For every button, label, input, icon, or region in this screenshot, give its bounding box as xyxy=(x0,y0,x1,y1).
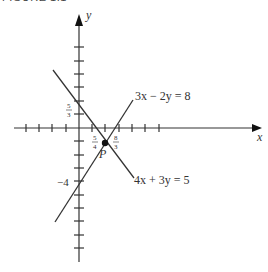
x-intercept-5-4-label: 5 4 xyxy=(92,134,98,151)
figure: FIGURE 1.1 xyxy=(0,0,268,272)
x-intercept-8-3-label: 8 3 xyxy=(113,134,119,151)
svg-text:5: 5 xyxy=(67,102,71,110)
svg-text:3: 3 xyxy=(114,143,118,151)
equation-label-3x-minus-2y: 3x − 2y = 8 xyxy=(135,89,191,103)
intersection-point-dot xyxy=(102,140,108,146)
x-axis-label: x xyxy=(256,130,263,144)
y-intercept-5-3-label: 5 3 xyxy=(66,102,72,119)
svg-text:8: 8 xyxy=(114,134,118,142)
svg-text:4: 4 xyxy=(93,143,97,151)
svg-text:3: 3 xyxy=(67,111,71,119)
equation-label-4x-plus-3y: 4x + 3y = 5 xyxy=(134,173,190,187)
y-intercept-minus-4-label: −4 xyxy=(57,176,69,188)
y-axis-arrow-icon xyxy=(75,14,83,26)
y-axis-label: y xyxy=(85,8,92,22)
svg-text:5: 5 xyxy=(93,134,97,142)
coordinate-plane: x y 3x − 2y = 8 4x + 3y = 5 P 5 3 −4 5 4… xyxy=(0,0,268,272)
point-label-p: P xyxy=(98,147,107,161)
